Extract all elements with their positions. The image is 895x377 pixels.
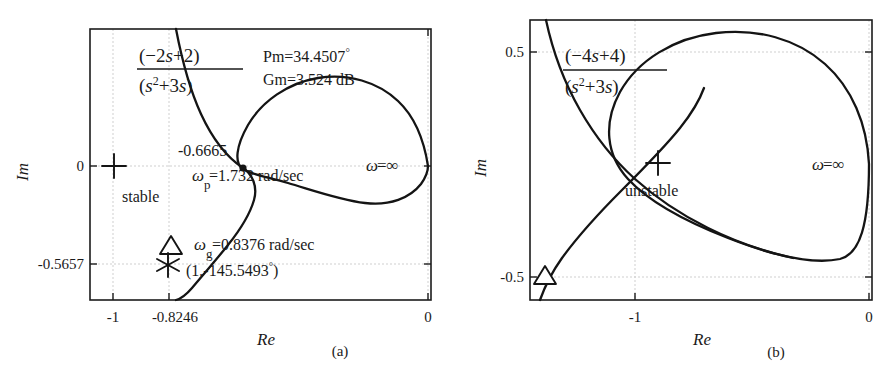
critical-point-plus-marker-b	[646, 151, 670, 175]
ytick-label-a-neg05657: -0.5657	[38, 256, 85, 272]
xtick-label-b-neg1: -1	[629, 309, 642, 325]
omega-inf-value-a: =∞	[377, 156, 399, 175]
margins-a: Pm=34.4507° Gm=3.524 dB	[263, 46, 355, 88]
ytick-label-b-05: 0.5	[505, 44, 524, 60]
panel-a: (−2s+2) (s2+3s) Pm=34.4507° Gm=3.524 dB …	[13, 29, 432, 360]
panel-b-tag: (b)	[767, 344, 785, 361]
xtick-label-a-neg1: -1	[107, 309, 120, 325]
stability-region-label-b: unstable	[625, 182, 678, 199]
figure-canvas: (−2s+2) (s2+3s) Pm=34.4507° Gm=3.524 dB …	[0, 0, 895, 377]
nyquist-curve-b-branch-2	[540, 88, 704, 300]
xtick-label-a-neg08246: -0.8246	[152, 309, 199, 325]
xaxis-label-b: Re	[692, 330, 711, 349]
gain-crossover-point-label: (1,-145.5493°)	[186, 260, 278, 280]
transfer-function-b: (−4s+4) (s2+3s)	[563, 45, 667, 98]
phase-margin-label: Pm=34.4507°	[263, 46, 350, 65]
xtick-label-b-0: 0	[865, 309, 873, 325]
tf-a-numerator: (−2s+2)	[139, 45, 200, 67]
nyquist-curve-a-lobe	[237, 77, 428, 204]
panel-b: (−4s+4) (s2+3s) unstable ω =∞ 0.5 -0.5 -…	[471, 20, 873, 361]
nyquist-curve-b-lobe	[609, 32, 869, 261]
gain-crossover-triangle-marker-b	[534, 266, 556, 284]
omega-inf-value-b: =∞	[823, 155, 845, 174]
phase-crossover-frequency-label: ω p =1.732 rad/sec	[192, 166, 303, 192]
yaxis-label-a: Im	[13, 163, 32, 182]
omega-g-value: =0.8376 rad/sec	[212, 236, 314, 253]
omega-p-symbol: ω	[192, 166, 204, 185]
xtick-label-a-0: 0	[424, 309, 432, 325]
crossing-real-value-label: -0.6665	[178, 142, 227, 159]
tf-b-denominator: (s2+3s)	[565, 75, 619, 98]
omega-g-symbol: ω	[194, 235, 206, 254]
gain-margin-label: Gm=3.524 dB	[263, 71, 355, 88]
yaxis-label-b: Im	[471, 159, 490, 178]
omega-infinity-label-b: ω =∞	[812, 155, 845, 174]
ytick-label-b-neg05: -0.5	[500, 269, 524, 285]
critical-point-plus-marker-a	[102, 154, 126, 178]
transfer-function-a: (−2s+2) (s2+3s)	[137, 45, 243, 97]
tf-b-numerator: (−4s+4)	[565, 45, 626, 67]
tf-a-denominator: (s2+3s)	[139, 74, 193, 97]
panel-a-tag: (a)	[332, 343, 349, 360]
gain-crossover-triangle-marker-a	[160, 236, 182, 254]
ytick-label-a-0: 0	[77, 158, 85, 174]
gain-crossover-star-marker-a	[157, 253, 179, 277]
omega-p-value: =1.732 rad/sec	[209, 167, 303, 184]
panel-b-tick-marks	[530, 52, 872, 300]
xaxis-label-a: Re	[256, 330, 275, 349]
stability-region-label-a: stable	[122, 188, 159, 205]
omega-infinity-label-a: ω =∞	[366, 156, 399, 175]
nyquist-figure: (−2s+2) (s2+3s) Pm=34.4507° Gm=3.524 dB …	[0, 0, 895, 377]
panel-b-markers	[534, 151, 670, 284]
gain-crossover-frequency-label: ω g =0.8376 rad/sec	[194, 235, 314, 261]
